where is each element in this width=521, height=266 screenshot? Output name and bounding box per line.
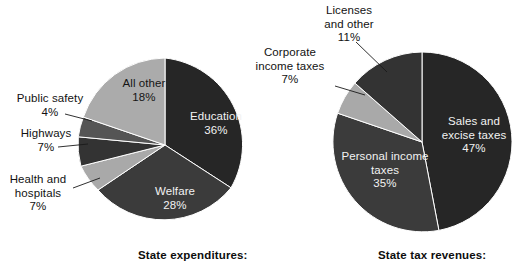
label-sales-and-excise-taxes-line2: excise taxes bbox=[428, 129, 520, 143]
label-corporate-income-taxes-line1: Corporate bbox=[264, 46, 316, 58]
label-highways-value: 7% bbox=[6, 141, 86, 155]
label-licenses-and-other: Licenses and other 11% bbox=[304, 4, 394, 45]
label-highways-line1: Highways bbox=[21, 127, 72, 139]
caption-state-expenditures: State expenditures: bbox=[138, 249, 248, 261]
label-education: Education 36% bbox=[176, 110, 256, 137]
label-licenses-and-other-value: 11% bbox=[304, 31, 394, 45]
label-public-safety: Public safety 4% bbox=[2, 92, 98, 119]
two-pie-charts-figure: Public safety 4% Highways 7% Health and … bbox=[0, 0, 521, 266]
leader-line-licenses-and-other bbox=[356, 42, 387, 72]
label-education-line1: Education bbox=[190, 110, 242, 122]
caption-state-tax-revenues: State tax revenues: bbox=[378, 249, 486, 261]
label-welfare: Welfare 28% bbox=[140, 185, 210, 212]
label-health-and-hospitals-line2: hospitals bbox=[0, 187, 76, 201]
label-personal-income-taxes-value: 35% bbox=[333, 177, 437, 191]
label-education-value: 36% bbox=[176, 124, 256, 138]
label-personal-income-taxes: Personal income taxes 35% bbox=[333, 150, 437, 191]
label-public-safety-value: 4% bbox=[2, 106, 98, 120]
label-sales-and-excise-taxes-line1: Sales and bbox=[448, 115, 500, 127]
label-personal-income-taxes-line2: taxes bbox=[333, 164, 437, 178]
label-licenses-and-other-line2: and other bbox=[304, 18, 394, 32]
label-health-and-hospitals-line1: Health and bbox=[10, 173, 67, 185]
label-health-and-hospitals-value: 7% bbox=[0, 200, 76, 214]
label-personal-income-taxes-line1: Personal income bbox=[341, 150, 428, 162]
label-licenses-and-other-line1: Licenses bbox=[326, 4, 372, 16]
label-all-other: All other 18% bbox=[102, 77, 186, 104]
label-sales-and-excise-taxes: Sales and excise taxes 47% bbox=[428, 115, 520, 156]
label-corporate-income-taxes-value: 7% bbox=[247, 73, 333, 87]
label-health-and-hospitals: Health and hospitals 7% bbox=[0, 173, 76, 214]
label-welfare-line1: Welfare bbox=[155, 185, 195, 197]
label-highways: Highways 7% bbox=[6, 127, 86, 154]
label-corporate-income-taxes-line2: income taxes bbox=[247, 60, 333, 74]
label-all-other-line1: All other bbox=[122, 77, 165, 89]
label-welfare-value: 28% bbox=[140, 199, 210, 213]
label-public-safety-line1: Public safety bbox=[17, 92, 84, 104]
label-sales-and-excise-taxes-value: 47% bbox=[428, 142, 520, 156]
label-corporate-income-taxes: Corporate income taxes 7% bbox=[247, 46, 333, 87]
label-all-other-value: 18% bbox=[102, 91, 186, 105]
